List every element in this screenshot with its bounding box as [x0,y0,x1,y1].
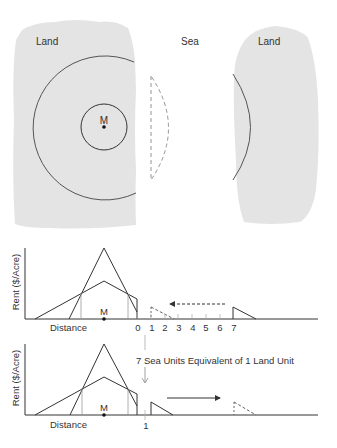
tick-0: 0 [135,322,140,333]
tick-3: 3 [176,322,181,333]
xlabel-top: Distance [50,322,87,333]
tick-marks-top [137,314,220,319]
graph-top: Rent ($/Acre) M Distance 0 [10,248,318,333]
far-land-triangle-slope [233,307,256,319]
market-label-top: M [100,306,108,317]
land-sea-rent-diagram: M Land Sea Land Rent ($/Acre) M Distance [0,0,337,448]
left-land-label: Land [36,36,58,47]
xlabel-bottom: Distance [50,419,87,430]
market-dot-bottom [102,413,106,417]
dashed-sea-arc [151,76,169,180]
tick-5: 5 [203,322,208,333]
tick-7: 7 [231,322,236,333]
left-land-mass [13,20,136,229]
sea-triangle-slope [151,307,174,319]
right-land-mass [234,26,319,224]
market-dot-top [102,317,106,321]
tick-1-bottom: 1 [143,420,148,431]
tick-1: 1 [149,322,154,333]
graph-bottom: Rent ($/Acre) M Distance 7 Sea Units Equ… [10,335,318,431]
tick-2: 2 [162,322,167,333]
shifted-land-triangle-slope [151,402,173,415]
sea-label: Sea [181,36,199,47]
shallow-rent-curve-top [35,281,137,319]
tick-4: 4 [190,322,195,333]
right-land-label: Land [258,36,280,47]
market-label-bottom: M [100,402,108,413]
ylabel-bottom: Rent ($/Acre) [10,350,21,407]
map: M Land Sea Land [13,20,318,229]
ylabel-top: Rent ($/Acre) [10,254,21,311]
annotation-text: 7 Sea Units Equivalent of 1 Land Unit [136,355,294,366]
far-dashed-triangle-slope [234,402,256,415]
tick-6: 6 [217,322,222,333]
market-label-map: M [100,115,108,126]
